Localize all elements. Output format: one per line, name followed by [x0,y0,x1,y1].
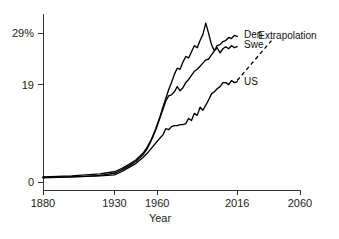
data-series-group [43,23,237,178]
y-tick-label-19: 19 [22,79,34,91]
x-axis-ticks [43,190,300,195]
x-tick-label-1930: 1930 [102,197,126,209]
x-tick-label-1880: 1880 [31,197,55,209]
line-chart: 01929% 18801930196020162060 Den Swe US E… [0,0,339,239]
y-tick-label-0: 0 [28,176,34,188]
series-line-us [43,81,237,178]
y-axis-ticks [38,33,43,182]
y-axis-tick-labels: 01929% [12,27,34,188]
x-tick-label-2060: 2060 [288,197,312,209]
x-axis-tick-labels: 18801930196020162060 [31,197,312,209]
x-axis-title: Year [149,212,172,224]
x-tick-label-1960: 1960 [145,197,169,209]
series-line-swe [43,46,237,178]
series-label-us: US [244,76,258,87]
annotation-extrapolation: Extrapolation [258,30,316,41]
x-tick-label-2016: 2016 [225,197,249,209]
chart-container: 01929% 18801930196020162060 Den Swe US E… [0,0,339,239]
y-tick-label-29: 29% [12,27,34,39]
